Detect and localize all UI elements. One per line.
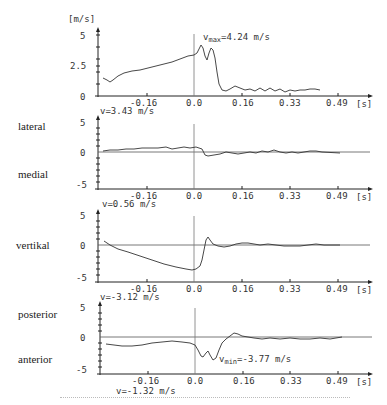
side-label-anterior: anterior — [18, 353, 53, 365]
x-tick-0.0: 0.0 — [186, 191, 202, 201]
x-axis-arrow-icon — [368, 187, 373, 191]
x-unit-label: [s] — [356, 192, 372, 202]
x-tick-0.33: 0.33 — [279, 284, 301, 294]
x-axis-arrow-icon — [368, 280, 373, 284]
chart-panel-vertikal: vertikal 5 0 -5 -0.16 0.0 0.16 0.33 0.49… — [16, 209, 373, 302]
y-tick-5: 5 — [80, 211, 85, 221]
chart-panel-posterior-anterior: posterior anterior 5 0 -5 -0.16 0.0 0.16… — [18, 301, 373, 396]
x-tick-0.0: 0.0 — [186, 98, 202, 108]
caption-cropped — [60, 397, 350, 401]
x-tick-0.49: 0.49 — [326, 376, 348, 386]
side-label-posterior: posterior — [18, 308, 57, 320]
y-tick-5: 5 — [80, 303, 85, 313]
x-tick-0.0: 0.0 — [186, 284, 202, 294]
x-tick-0.16: 0.16 — [233, 376, 255, 386]
vmax-annotation: vmax=4.24 m/s — [203, 32, 270, 44]
y-tick-0: 0 — [80, 333, 85, 343]
y-tick-0: 0 — [80, 241, 85, 251]
x-tick-0.33: 0.33 — [279, 191, 301, 201]
trace-lateral-medial — [103, 147, 340, 156]
side-label-vertikal: vertikal — [16, 239, 50, 251]
x-unit-label: [s] — [356, 285, 372, 295]
x-tick-0.33: 0.33 — [280, 376, 302, 386]
y-axis-arrow-icon — [96, 27, 100, 32]
x-tick-0.33: 0.33 — [279, 98, 301, 108]
value-label-2: v=0.56 m/s — [102, 199, 156, 209]
chart-panel-resultant: [m/s] 5 2.5 0 -0.16 0.0 0.16 0.33 0.49 [… — [68, 14, 373, 116]
x-tick-0.16: 0.16 — [232, 98, 254, 108]
y-tick-0: 0 — [80, 148, 85, 158]
side-label-lateral: lateral — [18, 120, 45, 132]
y-tick-0: 0 — [80, 92, 85, 102]
value-label-1: v=3.43 m/s — [100, 106, 154, 116]
x-unit-label: [s] — [356, 377, 372, 387]
x-axis-arrow-icon — [368, 94, 373, 98]
trace-vertikal — [104, 237, 340, 270]
x-tick-0.49: 0.49 — [326, 191, 348, 201]
y-tick--5: -5 — [76, 273, 87, 283]
chart-panel-lateral-medial: lateral medial 5 0 -5 -0.16 0.0 0.16 0.3… — [18, 115, 373, 209]
y-tick-5: 5 — [80, 31, 85, 41]
x-unit-label: [s] — [356, 99, 372, 109]
x-tick-0.16: 0.16 — [232, 191, 254, 201]
x-axis-arrow-icon — [368, 372, 373, 376]
side-label-medial: medial — [18, 168, 48, 180]
y-unit-label: [m/s] — [68, 14, 95, 24]
x-tick-0.49: 0.49 — [326, 98, 348, 108]
vmin-annotation: vmin=-3.77 m/s — [219, 354, 291, 366]
y-axis-arrow-icon — [96, 209, 100, 214]
y-tick-2.5: 2.5 — [70, 61, 86, 71]
y-tick-5: 5 — [80, 118, 85, 128]
y-tick--5: -5 — [76, 365, 87, 375]
x-tick-0.49: 0.49 — [326, 284, 348, 294]
value-label-3: v=-3.12 m/s — [100, 292, 160, 302]
velocity-charts: [m/s] 5 2.5 0 -0.16 0.0 0.16 0.33 0.49 [… — [0, 0, 387, 405]
x-tick--0.16: -0.16 — [132, 376, 159, 386]
value-label-4: v=-1.32 m/s — [116, 386, 176, 396]
x-tick-0.0: 0.0 — [187, 376, 203, 386]
x-tick-0.16: 0.16 — [232, 284, 254, 294]
y-tick--5: -5 — [76, 180, 87, 190]
trace-resultant — [103, 45, 320, 92]
